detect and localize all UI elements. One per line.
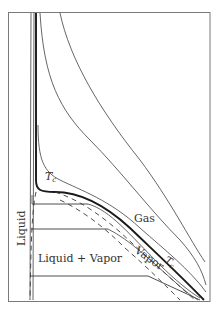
isotherm-supercritical [38,125,206,292]
tie-line-3 [30,276,200,300]
pv-isotherm-diagram: Tc Gas Tc Vapor Liquid Liquid + Vapor [0,0,220,309]
saturated-vapor-curve [55,192,195,300]
critical-temp-label-inner: Tc [45,170,56,184]
gas-label: Gas [134,212,155,225]
liquid-vapor-label: Liquid + Vapor [38,252,123,265]
isotherm-high-2 [40,13,206,285]
vapor-label: Vapor [131,243,166,273]
liquid-line-2 [33,13,34,300]
saturated-vapor-curve-2 [60,200,180,300]
isotherm-high-1 [60,13,205,262]
liquid-label: Liquid [15,210,28,246]
